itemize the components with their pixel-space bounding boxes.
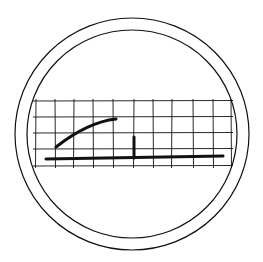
grid-horizontal-line — [33, 133, 233, 134]
grid-vertical-line — [36, 99, 37, 168]
sketch-canvas — [0, 0, 263, 262]
outer-circle — [15, 18, 249, 250]
grid-horizontal-line — [33, 166, 233, 167]
badge-ring — [15, 18, 249, 250]
inner-circle — [27, 30, 237, 238]
grid-horizontal-line — [33, 117, 233, 118]
grid-vertical-line — [231, 99, 232, 168]
chart-badge-icon — [0, 0, 263, 262]
grid-horizontal-line — [33, 101, 233, 102]
